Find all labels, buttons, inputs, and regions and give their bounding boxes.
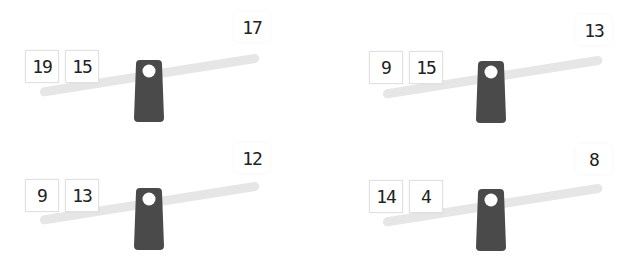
target-value: 8 bbox=[576, 144, 612, 174]
seesaw-puzzle-1: 19 15 17 bbox=[0, 0, 313, 138]
target-value: 13 bbox=[576, 15, 612, 45]
weight-box[interactable]: 13 bbox=[65, 179, 99, 212]
weight-box[interactable]: 15 bbox=[65, 50, 99, 83]
weight-box[interactable]: 4 bbox=[409, 180, 443, 213]
weight-box[interactable]: 15 bbox=[409, 51, 443, 84]
fulcrum-icon bbox=[476, 61, 506, 123]
fulcrum-icon bbox=[134, 60, 164, 122]
seesaw-puzzle-3: 9 13 12 bbox=[0, 138, 313, 276]
weight-box[interactable]: 19 bbox=[25, 50, 59, 83]
fulcrum-icon bbox=[476, 189, 506, 251]
weight-box[interactable]: 9 bbox=[25, 179, 59, 212]
weight-box[interactable]: 14 bbox=[369, 180, 403, 213]
target-value: 12 bbox=[234, 143, 270, 173]
fulcrum-icon bbox=[134, 188, 164, 250]
seesaw-puzzle-2: 9 15 13 bbox=[313, 0, 626, 138]
target-value: 17 bbox=[234, 12, 270, 42]
seesaw-puzzle-4: 14 4 8 bbox=[313, 138, 626, 276]
weight-box[interactable]: 9 bbox=[369, 51, 403, 84]
